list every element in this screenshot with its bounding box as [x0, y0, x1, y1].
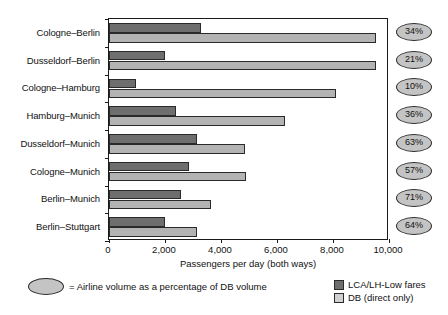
percentage-badge: 63% [396, 134, 432, 152]
y-axis-tick [105, 186, 109, 187]
y-axis-tick [105, 75, 109, 76]
x-axis-tick [333, 239, 334, 243]
x-axis-tick [277, 239, 278, 243]
legend-item: LCA/LH-Low fares [334, 279, 426, 290]
category-label: Berlin–Munich [41, 193, 100, 204]
x-axis-tick-label: 8,000 [320, 244, 344, 255]
bar-lca-lh [109, 106, 176, 116]
x-axis-tick-label: 2,000 [152, 244, 176, 255]
category-label: Dusseldorf–Berlin [27, 54, 100, 65]
percentage-badge: 64% [396, 217, 432, 235]
bar-db [109, 61, 376, 71]
legend-label: DB (direct only) [348, 292, 413, 303]
category-axis-labels: Cologne–BerlinDusseldorf–BerlinCologne–H… [0, 18, 104, 240]
category-label: Cologne–Munich [30, 165, 100, 176]
x-axis-tick [389, 239, 390, 243]
y-axis-tick [105, 158, 109, 159]
chart-legend: LCA/LH-Low faresDB (direct only) [334, 279, 426, 305]
legend-item: DB (direct only) [334, 292, 426, 303]
bar-chart: Cologne–BerlinDusseldorf–BerlinCologne–H… [0, 0, 448, 315]
percentage-badge: 10% [396, 78, 432, 96]
y-axis-tick [105, 130, 109, 131]
category-label: Cologne–Hamburg [22, 82, 100, 93]
category-label: Cologne–Berlin [36, 26, 100, 37]
percentage-badges: 34%21%10%36%63%57%71%64% [394, 18, 448, 240]
bar-lca-lh [109, 162, 189, 172]
legend-swatch-db [334, 293, 344, 303]
percentage-badge: 21% [396, 51, 432, 69]
bar-db [109, 116, 285, 126]
category-label: Hamburg–Munich [26, 110, 100, 121]
x-axis-tick [109, 239, 110, 243]
x-axis-tick-label: 10,000 [373, 244, 402, 255]
bar-lca-lh [109, 51, 165, 61]
y-axis-tick [105, 102, 109, 103]
x-axis-tick [165, 239, 166, 243]
percentage-badge: 57% [396, 162, 432, 180]
bar-lca-lh [109, 79, 136, 89]
caption-oval-swatch [28, 278, 64, 295]
bar-db [109, 172, 246, 182]
caption-text: = Airline volume as a percentage of DB v… [69, 281, 267, 292]
x-axis-tick-label: 4,000 [208, 244, 232, 255]
bar-lca-lh [109, 134, 197, 144]
y-axis-tick [105, 47, 109, 48]
bar-db [109, 200, 211, 210]
y-axis-tick [105, 213, 109, 214]
x-axis-tick [221, 239, 222, 243]
percentage-badge: 36% [396, 106, 432, 124]
bar-db [109, 89, 336, 99]
y-axis-tick [105, 19, 109, 20]
x-axis-title: Passengers per day (both ways) [108, 258, 388, 269]
category-label: Dusseldorf–Munich [20, 137, 100, 148]
percentage-badge: 71% [396, 189, 432, 207]
percentage-badge: 34% [396, 23, 432, 41]
legend-label: LCA/LH-Low fares [348, 279, 426, 290]
chart-caption: = Airline volume as a percentage of DB v… [28, 278, 267, 295]
bar-lca-lh [109, 23, 201, 33]
legend-swatch-lca-lh [334, 280, 344, 290]
bar-lca-lh [109, 217, 165, 227]
bar-db [109, 33, 376, 43]
category-label: Berlin–Stuttgart [36, 221, 100, 232]
bar-lca-lh [109, 190, 181, 200]
bar-db [109, 144, 245, 154]
x-axis-tick-label: 0 [105, 244, 110, 255]
x-axis-tick-label: 6,000 [264, 244, 288, 255]
plot-area [108, 18, 388, 240]
bar-db [109, 227, 197, 237]
